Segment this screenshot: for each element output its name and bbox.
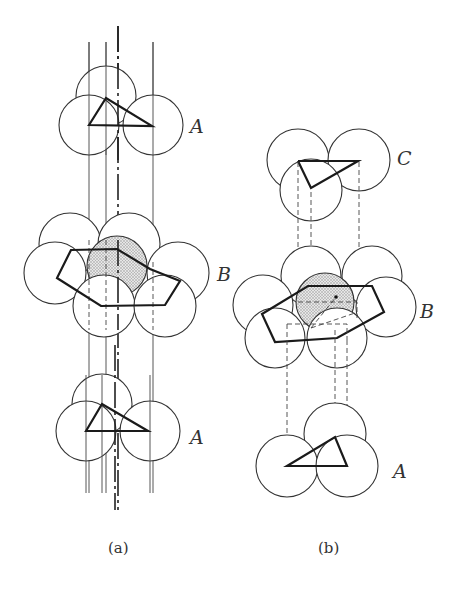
panel-b-layer-a: A [256, 403, 407, 497]
layer-label-a-bottom: A [188, 426, 204, 448]
layer-label-a-top: A [188, 115, 204, 137]
panel-b-layer-c: C [267, 129, 412, 221]
panel-a-layer-a-top: A [59, 26, 204, 160]
caption-b: (b) [318, 539, 339, 557]
layer-label-b: B [216, 263, 231, 285]
panel-b-layer-b: B [233, 246, 434, 368]
layer-label-b: B [419, 300, 434, 322]
panel-a: A B A [24, 26, 231, 557]
caption-a: (a) [108, 539, 129, 557]
layer-label-a: A [391, 460, 407, 482]
panel-b: C B [233, 129, 434, 557]
layer-label-c: C [397, 147, 412, 169]
close-packing-figure: A B A [0, 0, 455, 591]
panel-a-layer-a-bottom: A [56, 345, 204, 510]
panel-a-layer-b: B [24, 213, 231, 337]
